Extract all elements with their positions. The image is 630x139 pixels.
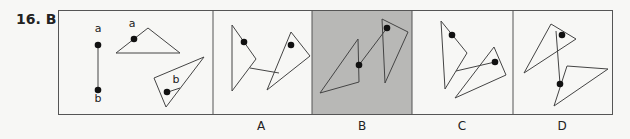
example-cell xyxy=(98,28,204,107)
triangle-a-label: a xyxy=(122,17,142,30)
point-b-label: b xyxy=(88,92,108,105)
puzzle-figure xyxy=(0,0,630,139)
option-b-label[interactable]: B xyxy=(352,119,372,133)
triangle-b-label: b xyxy=(166,73,186,86)
selected-option-background xyxy=(312,10,412,114)
point-a-dot xyxy=(95,42,102,49)
option-d-figure xyxy=(524,24,608,106)
triangle-b-dot xyxy=(164,89,171,96)
example-dots xyxy=(95,36,171,96)
option-c-label[interactable]: C xyxy=(452,119,472,133)
point-a-label: a xyxy=(88,22,108,35)
option-d-label[interactable]: D xyxy=(552,119,572,133)
option-a-figure xyxy=(232,25,310,91)
option-a-label[interactable]: A xyxy=(251,119,271,133)
triangle-a-dot xyxy=(131,36,138,43)
